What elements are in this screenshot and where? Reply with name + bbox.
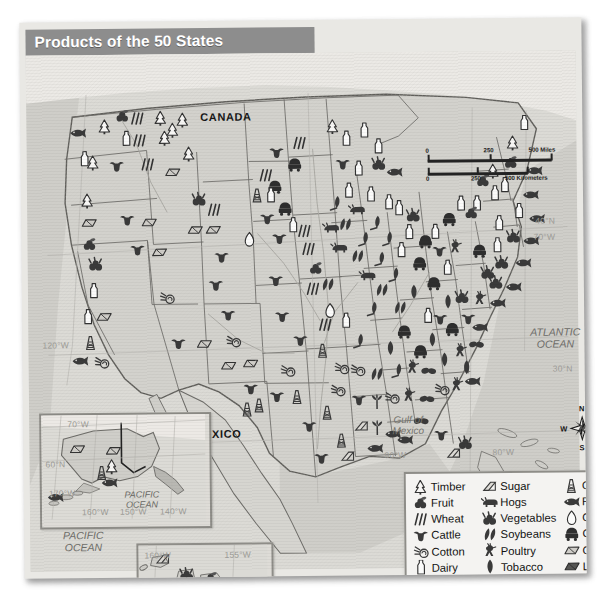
alaska-ocean-line1: PACIFIC: [124, 489, 159, 499]
alaska-ocean-label: PACIFIC OCEAN: [110, 490, 174, 510]
poultry-icon: [482, 543, 499, 558]
legend-label-timber: Timber: [431, 481, 466, 493]
scale-tick-mi-250: [490, 154, 492, 161]
legend-label-cotton: Cotton: [431, 545, 464, 557]
map-title-bar: Products of the 50 States: [25, 27, 314, 56]
scanned-map-page: Products of the 50 States: [19, 17, 586, 578]
timber-icon: [412, 479, 429, 494]
legend-label-soybeans: Soybeans: [501, 528, 551, 540]
legend-label-lead: Lead: [583, 560, 587, 572]
soybeans-icon: [482, 527, 499, 542]
legend-label-hogs: Hogs: [500, 496, 526, 508]
cattle-icon: [412, 528, 429, 543]
scale-tick-mi-0: [428, 155, 430, 162]
legend-item-cotton[interactable]: Cotton: [412, 543, 481, 560]
legend-item-fish[interactable]: Fish: [563, 493, 587, 510]
hawaii-inset-graphic: [138, 544, 268, 578]
legend-item-coal[interactable]: Coal: [563, 525, 586, 542]
legend-item-sugar[interactable]: Sugar: [481, 478, 563, 495]
sugar-icon: [481, 479, 498, 494]
lead-icon: [564, 559, 581, 574]
legend-column-1: Timber Fruit Wheat Cattle: [412, 478, 482, 578]
scale-label-km-500: 500 Kilometers: [505, 175, 548, 181]
scale-label-km-250: 250: [471, 175, 481, 181]
gas-icon: [563, 510, 580, 525]
scale-tick-km-0: [428, 168, 430, 175]
scale-tick-km-500: [527, 167, 529, 174]
legend-label-poultry: Poultry: [501, 544, 536, 556]
scale-tick-km-250: [477, 167, 479, 174]
legend-item-tobacco[interactable]: Tobacco: [482, 558, 564, 575]
compass-label-north: N: [579, 404, 585, 413]
legend-item-cattle[interactable]: Cattle: [412, 527, 481, 544]
legend-label-vegetables: Vegetables: [500, 512, 556, 525]
scale-label-mi-0: 0: [426, 148, 429, 154]
compass-label-west: W: [560, 424, 567, 433]
compass-rose: N E S W: [559, 402, 587, 452]
scale-label-mi-250: 250: [484, 147, 494, 153]
legend-item-oil[interactable]: Oil: [563, 477, 587, 494]
compass-label-south: S: [579, 443, 584, 452]
legend-item-wheat[interactable]: Wheat: [412, 511, 481, 528]
legend-label-gold: Gold: [582, 544, 586, 556]
inset-map-alaska: PACIFIC OCEAN 170°W 160°W 150°W 140°W 60…: [39, 412, 212, 530]
legend-item-fruit[interactable]: Fruit: [412, 494, 481, 511]
fruit-icon: [412, 496, 429, 511]
dairy-icon: [413, 560, 430, 575]
legend-label-gas: Gas: [582, 511, 586, 523]
oil-icon: [563, 478, 580, 493]
legend-item-dairy[interactable]: Dairy: [413, 559, 482, 576]
tobacco-icon: [482, 559, 499, 574]
scale-label-km-0: 0: [426, 176, 429, 182]
legend-item-gas[interactable]: Gas: [563, 509, 587, 526]
hogs-icon: [481, 495, 498, 510]
scale-label-mi-500: 500 Miles: [529, 147, 556, 153]
legend-column-3: Oil Fish Gas Coal: [563, 477, 587, 579]
coal-icon: [563, 526, 580, 541]
fish-icon: [563, 494, 580, 509]
cotton-icon: [412, 544, 429, 559]
scale-tick-mi-500: [551, 154, 553, 161]
wheat-icon: [412, 512, 429, 527]
legend-item-gold[interactable]: Gold: [563, 542, 586, 559]
legend-label-coal: Coal: [582, 528, 586, 540]
legend-item-soybeans[interactable]: Soybeans: [482, 526, 564, 543]
scale-bar: 0 250 500 Miles 0 250 500 Kilometers: [425, 148, 565, 177]
inset-map-hawaii: PACIFIC OCEAN 160°W 155°W 20°N: [136, 542, 274, 578]
legend-item-timber[interactable]: Timber: [412, 478, 481, 495]
legend-column-2: Sugar Hogs Vegetables Soybeans: [481, 478, 564, 579]
legend-item-poultry[interactable]: Poultry: [482, 542, 564, 559]
legend-label-sugar: Sugar: [500, 480, 530, 492]
alaska-ocean-line2: OCEAN: [126, 499, 158, 509]
legend-item-vegetables[interactable]: Vegetables: [481, 510, 563, 527]
legend-label-dairy: Dairy: [432, 561, 458, 573]
page-title: Products of the 50 States: [25, 32, 223, 52]
vegetables-icon: [481, 511, 498, 526]
gold-icon: [563, 542, 580, 557]
legend-label-cattle: Cattle: [431, 529, 461, 541]
legend-label-tobacco: Tobacco: [501, 560, 543, 572]
legend-item-hogs[interactable]: Hogs: [481, 494, 563, 511]
legend-label-wheat: Wheat: [431, 513, 464, 525]
map-legend: Timber Fruit Wheat Cattle: [404, 470, 587, 579]
legend-label-fruit: Fruit: [431, 497, 454, 509]
legend-item-lead[interactable]: Lead: [564, 558, 587, 575]
